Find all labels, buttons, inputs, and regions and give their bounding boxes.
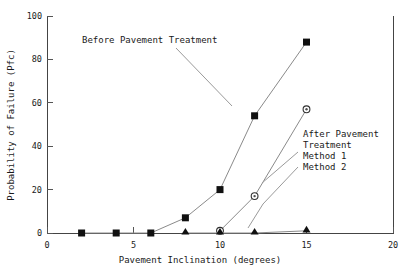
data-point-method1-12-center bbox=[253, 195, 255, 197]
y-tick-label-80: 80 bbox=[32, 54, 42, 64]
y-tick-label-20: 20 bbox=[32, 185, 42, 195]
annotation-after-pavement-treatment: After Pavement Treatment Method 1 Method… bbox=[303, 129, 379, 172]
data-point-before-8 bbox=[182, 214, 189, 221]
x-tick-label-15: 15 bbox=[301, 240, 311, 250]
data-point-method2-8 bbox=[181, 228, 189, 235]
leader-line-before bbox=[176, 48, 232, 106]
x-tick-label-0: 0 bbox=[44, 240, 49, 250]
y-tick-labels: 0 20 40 60 80 100 bbox=[27, 11, 42, 238]
annotation-after-line-1: After Pavement bbox=[303, 129, 379, 139]
data-point-before-12 bbox=[251, 112, 258, 119]
series-before-line bbox=[82, 42, 307, 233]
series-method1-line bbox=[220, 109, 307, 231]
annotation-before-pavement-treatment: Before Pavement Treatment bbox=[82, 35, 217, 45]
x-tick-label-5: 5 bbox=[131, 240, 136, 250]
annotation-after-line-3: Method 1 bbox=[303, 151, 346, 161]
plot-frame bbox=[47, 16, 393, 233]
chart-figure: 0 20 40 60 80 100 0 5 10 15 20 Pavement … bbox=[0, 0, 404, 270]
data-point-before-6 bbox=[147, 230, 154, 237]
data-point-method2-15 bbox=[303, 226, 311, 233]
y-tick-label-0: 0 bbox=[37, 228, 42, 238]
data-point-before-2 bbox=[78, 230, 85, 237]
axis-frame-path bbox=[47, 16, 393, 233]
data-point-method1-15-center bbox=[305, 108, 307, 110]
y-axis-title: Probability of Failure (Pfc) bbox=[6, 49, 16, 201]
annotation-leader-lines bbox=[176, 48, 298, 228]
y-tick-label-100: 100 bbox=[27, 11, 42, 21]
annotation-after-line-2: Treatment bbox=[303, 140, 352, 150]
y-tick-label-60: 60 bbox=[32, 98, 42, 108]
leader-line-method1 bbox=[262, 152, 298, 183]
probability-of-failure-chart: 0 20 40 60 80 100 0 5 10 15 20 Pavement … bbox=[0, 0, 404, 270]
data-point-before-10 bbox=[217, 186, 224, 193]
data-point-before-4 bbox=[113, 230, 120, 237]
y-tick-label-40: 40 bbox=[32, 141, 42, 151]
data-point-method2-12 bbox=[251, 228, 259, 235]
series-before-pavement-treatment bbox=[78, 39, 310, 237]
annotation-after-line-4: Method 2 bbox=[303, 162, 346, 172]
y-axis-ticks bbox=[47, 16, 53, 233]
x-tick-label-20: 20 bbox=[388, 240, 398, 250]
x-tick-labels: 0 5 10 15 20 bbox=[44, 240, 398, 250]
data-point-before-15 bbox=[303, 39, 310, 46]
x-tick-label-10: 10 bbox=[215, 240, 225, 250]
series-after-method-1 bbox=[217, 106, 310, 234]
x-axis-title: Pavement Inclination (degrees) bbox=[119, 255, 282, 265]
